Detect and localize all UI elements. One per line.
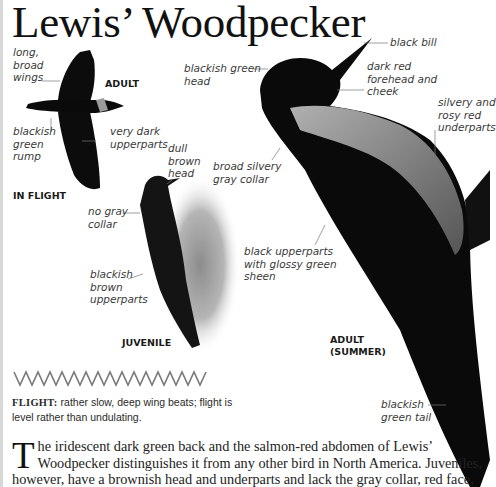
label-dull-brown-head: dull brown head: [168, 142, 201, 180]
species-description: T he iridescent dark green back and the …: [12, 438, 482, 487]
label-black-bill: black bill: [390, 36, 437, 49]
caption-flight-adult: ADULT: [105, 78, 139, 90]
flight-description: FLIGHT: rather slow, deep wing beats; fl…: [12, 395, 247, 424]
caption-adult-summer: ADULT (SUMMER): [330, 334, 386, 358]
label-blackish-green-rump: blackish green rump: [13, 125, 56, 163]
label-silvery-rosy-underparts: silvery and rosy red underparts: [438, 96, 496, 134]
label-no-gray-collar: no gray collar: [88, 205, 128, 230]
flight-heading: FLIGHT:: [12, 397, 58, 408]
label-very-dark-upperparts: very dark upperparts: [110, 125, 168, 150]
label-blackish-brown-upperparts: blackish brown upperparts: [90, 268, 148, 306]
caption-juvenile: JUVENILE: [122, 337, 171, 349]
label-dark-red-forehead: dark red forehead and cheek: [367, 60, 437, 98]
description-text: he iridescent dark green back and the sa…: [12, 438, 482, 487]
juvenile-woodpecker-illustration: [140, 175, 240, 355]
caption-in-flight: IN FLIGHT: [13, 190, 66, 202]
label-blackish-green-head: blackish green head: [184, 62, 261, 87]
zigzag-flight-path-icon: [14, 372, 206, 385]
drop-cap: T: [12, 441, 35, 471]
label-blackish-green-tail: blackish green tail: [381, 398, 431, 423]
label-broad-silvery-gray-collar: broad silvery gray collar: [213, 160, 281, 185]
label-long-broad-wings: long, broad wings: [13, 46, 44, 84]
label-black-upperparts-glossy-sheen: black upperparts with glossy green sheen: [244, 245, 337, 283]
